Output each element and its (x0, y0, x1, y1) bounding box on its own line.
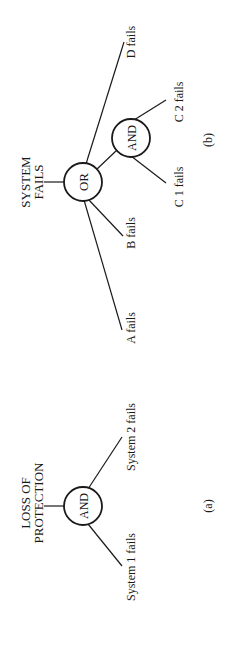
a-caption: (a) (201, 499, 215, 512)
b-input-c1-label: C 1 fails (172, 166, 186, 207)
a-and-gate-label: AND (77, 493, 91, 519)
b-input-d-label: D fails (124, 26, 138, 59)
b-caption: (b) (201, 133, 215, 147)
b-branch-c2 (134, 100, 166, 120)
b-input-c2-label: C 2 fails (172, 81, 186, 122)
fault-tree-figure: SYSTEM FAILS OR AND D fails C 2 fails C … (0, 0, 225, 648)
b-input-a-label: A fails (124, 312, 138, 344)
b-top-event-line2: FAILS (31, 164, 46, 199)
a-branch-system-2 (88, 437, 122, 489)
panel-a: LOSS OF PROTECTION AND System 2 fails Sy… (18, 403, 215, 601)
b-or-gate-label: OR (76, 173, 91, 191)
b-branch-c1 (131, 156, 166, 183)
a-input-system-2-label: System 2 fails (124, 403, 138, 471)
a-top-event-line2: PROTECTION (31, 462, 46, 544)
a-branch-system-1 (88, 524, 122, 566)
b-input-b-label: B fails (124, 217, 138, 249)
b-branch-c-gate (96, 150, 117, 170)
panel-b: SYSTEM FAILS OR AND D fails C 2 fails C … (18, 26, 215, 344)
a-input-system-1-label: System 1 fails (124, 533, 138, 601)
b-branch-a (84, 200, 122, 330)
b-and-gate-label: AND (125, 125, 139, 151)
